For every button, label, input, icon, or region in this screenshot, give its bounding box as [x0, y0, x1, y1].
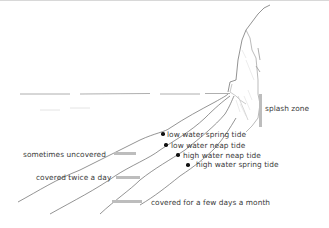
sometimes-uncovered-bar — [114, 152, 136, 155]
marker-high-water-neap — [176, 153, 180, 157]
label-high-water-spring-tide: high water spring tide — [196, 160, 279, 169]
shore-sketch — [0, 0, 329, 228]
sea-horizon — [20, 94, 230, 111]
marker-low-water-neap — [164, 143, 168, 147]
label-low-water-spring-tide: low water spring tide — [167, 130, 246, 139]
label-covered-twice-a-day: covered twice a day — [36, 173, 111, 182]
marker-high-water-spring — [186, 163, 190, 167]
label-low-water-neap-tide: low water neap tide — [171, 141, 245, 150]
label-splash-zone: splash zone — [265, 104, 309, 113]
label-high-water-neap-tide: high water neap tide — [183, 151, 261, 160]
label-covered-few-days-month: covered for a few days a month — [151, 198, 270, 207]
tidal-zones-diagram: low water spring tide low water neap tid… — [0, 0, 329, 228]
cliff-shading — [236, 50, 254, 116]
splash-zone-bar — [259, 94, 262, 127]
marker-low-water-spring — [161, 132, 165, 136]
covered-few-days-month-bar — [112, 200, 142, 203]
label-sometimes-uncovered: sometimes uncovered — [23, 150, 106, 159]
covered-twice-a-day-bar — [116, 176, 140, 179]
cliff — [228, 5, 270, 132]
